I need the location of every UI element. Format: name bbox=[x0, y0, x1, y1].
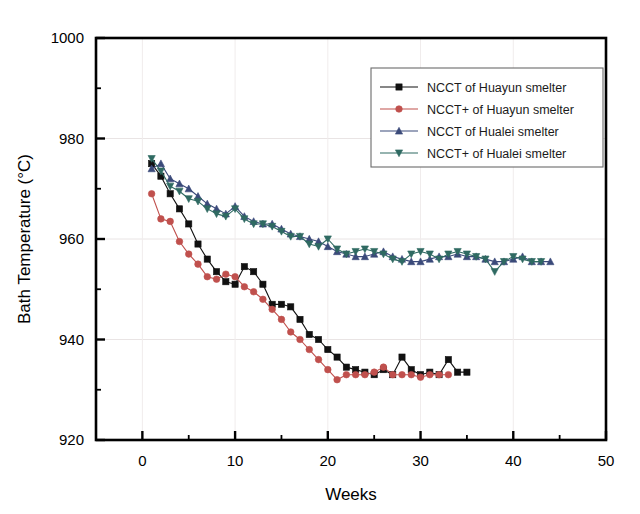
data-point-circle bbox=[427, 371, 434, 378]
data-point-circle bbox=[436, 371, 443, 378]
data-point-square bbox=[343, 364, 349, 370]
y-tick-label: 940 bbox=[59, 331, 84, 348]
data-point-square bbox=[204, 256, 210, 262]
data-point-circle bbox=[389, 371, 396, 378]
data-point-circle bbox=[167, 218, 174, 225]
data-point-circle bbox=[408, 371, 415, 378]
legend-label: NCCT of Hualei smelter bbox=[427, 125, 559, 139]
x-tick-label: 10 bbox=[227, 452, 244, 469]
data-point-circle bbox=[371, 369, 378, 376]
data-point-circle bbox=[396, 106, 403, 113]
data-point-square bbox=[260, 281, 266, 287]
x-tick-label: 0 bbox=[138, 452, 146, 469]
y-tick-label: 920 bbox=[59, 431, 84, 448]
data-point-square bbox=[232, 281, 238, 287]
data-point-square bbox=[278, 301, 284, 307]
data-point-circle bbox=[315, 356, 322, 363]
data-point-circle bbox=[380, 364, 387, 371]
data-point-circle bbox=[148, 190, 155, 197]
data-point-circle bbox=[306, 346, 313, 353]
y-axis-title: Bath Temperature (°C) bbox=[15, 154, 34, 324]
data-point-square bbox=[315, 336, 321, 342]
data-point-square bbox=[297, 316, 303, 322]
data-point-circle bbox=[195, 261, 202, 268]
data-point-circle bbox=[241, 283, 248, 290]
data-point-square bbox=[396, 84, 402, 90]
data-point-circle bbox=[334, 376, 341, 383]
data-point-square bbox=[445, 357, 451, 363]
x-tick-label: 20 bbox=[319, 452, 336, 469]
data-point-square bbox=[306, 331, 312, 337]
legend-label: NCCT+ of Huayun smelter bbox=[427, 103, 574, 117]
data-point-square bbox=[251, 269, 257, 275]
data-point-circle bbox=[204, 273, 211, 280]
data-point-circle bbox=[176, 238, 183, 245]
y-tick-label: 960 bbox=[59, 230, 84, 247]
legend-label: NCCT+ of Hualei smelter bbox=[427, 147, 566, 161]
data-point-square bbox=[213, 269, 219, 275]
data-point-circle bbox=[352, 371, 359, 378]
data-point-circle bbox=[297, 336, 304, 343]
data-point-circle bbox=[158, 216, 165, 223]
data-point-circle bbox=[232, 273, 239, 280]
data-point-circle bbox=[213, 276, 220, 283]
data-point-circle bbox=[260, 296, 267, 303]
legend-label: NCCT of Huayun smelter bbox=[427, 81, 566, 95]
data-point-square bbox=[195, 241, 201, 247]
data-point-circle bbox=[445, 371, 452, 378]
data-point-square bbox=[167, 191, 173, 197]
data-point-square bbox=[325, 346, 331, 352]
data-point-circle bbox=[223, 271, 230, 278]
data-point-circle bbox=[325, 366, 332, 373]
data-point-circle bbox=[269, 306, 276, 313]
data-point-circle bbox=[362, 371, 369, 378]
x-axis-title: Weeks bbox=[325, 485, 377, 504]
data-point-square bbox=[176, 206, 182, 212]
x-tick-label: 30 bbox=[412, 452, 429, 469]
data-point-circle bbox=[343, 371, 350, 378]
data-point-square bbox=[464, 369, 470, 375]
y-tick-label: 980 bbox=[59, 130, 84, 147]
data-point-square bbox=[399, 354, 405, 360]
x-tick-label: 50 bbox=[598, 452, 615, 469]
data-point-square bbox=[455, 369, 461, 375]
chart-figure: 01020304050 9209409609801000 Weeks Bath … bbox=[0, 0, 640, 514]
data-point-circle bbox=[250, 288, 257, 295]
y-tick-label: 1000 bbox=[51, 29, 84, 46]
data-point-circle bbox=[278, 316, 285, 323]
bath-temperature-line-chart: 01020304050 9209409609801000 Weeks Bath … bbox=[0, 0, 640, 514]
data-point-square bbox=[241, 264, 247, 270]
data-point-circle bbox=[287, 329, 294, 336]
data-point-square bbox=[334, 354, 340, 360]
data-point-circle bbox=[185, 251, 192, 258]
data-point-square bbox=[223, 279, 229, 285]
x-tick-label: 40 bbox=[505, 452, 522, 469]
data-point-circle bbox=[417, 374, 424, 381]
legend[interactable]: NCCT of Huayun smelterNCCT+ of Huayun sm… bbox=[371, 68, 603, 167]
data-point-circle bbox=[399, 371, 406, 378]
data-point-square bbox=[186, 221, 192, 227]
data-point-square bbox=[288, 304, 294, 310]
